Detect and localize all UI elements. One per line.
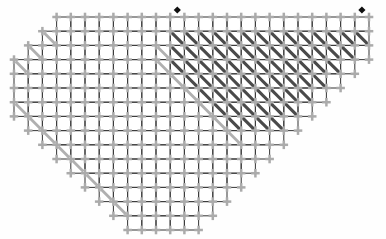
chart-cell: [227, 159, 241, 173]
chart-cell: [341, 60, 355, 74]
chart-cell: [184, 216, 198, 230]
chart-cell: [184, 202, 198, 216]
chart-cell: [85, 116, 99, 130]
chart-cell: [142, 88, 156, 102]
chart-cell: [99, 173, 113, 187]
chart-cell: [255, 145, 269, 159]
stitch-chart-svg: [0, 0, 386, 239]
chart-cell: [85, 45, 99, 59]
chart-cell: [213, 187, 227, 201]
chart-cell: [85, 88, 99, 102]
chart-cell: [184, 159, 198, 173]
chart-cell: [156, 74, 170, 88]
chart-cell: [270, 17, 284, 31]
chart-cell: [71, 31, 85, 45]
chart-cell: [326, 74, 340, 88]
chart-cell: [113, 116, 127, 130]
chart-cell: [113, 102, 127, 116]
chart-cell: [99, 17, 113, 31]
chart-cell: [156, 102, 170, 116]
chart-cell: [71, 131, 85, 145]
chart-cell: [85, 145, 99, 159]
chart-cell: [156, 88, 170, 102]
chart-cell: [142, 202, 156, 216]
chart-cell: [85, 102, 99, 116]
chart-cell: [241, 131, 255, 145]
chart-cell: [142, 159, 156, 173]
chart-cell: [156, 202, 170, 216]
chart-cell: [128, 173, 142, 187]
chart-cell: [14, 88, 28, 102]
chart-cell: [213, 159, 227, 173]
chart-cell: [184, 116, 198, 130]
chart-cell: [71, 102, 85, 116]
chart-cell: [85, 159, 99, 173]
chart-cell: [128, 131, 142, 145]
chart-cell: [142, 145, 156, 159]
chart-cell: [28, 102, 42, 116]
chart-cell: [184, 145, 198, 159]
chart-cell: [42, 45, 56, 59]
chart-cell: [355, 45, 369, 59]
chart-cell: [128, 17, 142, 31]
chart-cell: [113, 31, 127, 45]
chart-cell: [156, 131, 170, 145]
chart-cell: [128, 216, 142, 230]
chart-cell: [99, 116, 113, 130]
chart-cell: [170, 216, 184, 230]
chart-cell: [170, 202, 184, 216]
chart-cell: [71, 74, 85, 88]
chart-cell: [71, 116, 85, 130]
chart-cell: [71, 88, 85, 102]
chart-cell: [113, 88, 127, 102]
chart-cell: [42, 116, 56, 130]
chart-cell: [213, 17, 227, 31]
chart-cell: [85, 17, 99, 31]
chart-cell: [156, 17, 170, 31]
chart-cell: [156, 159, 170, 173]
chart-cell: [113, 173, 127, 187]
chart-cell: [142, 116, 156, 130]
chart-cell: [184, 173, 198, 187]
chart-cell: [142, 31, 156, 45]
chart-cell: [99, 45, 113, 59]
chart-cell: [113, 145, 127, 159]
chart-cell: [298, 17, 312, 31]
chart-cell: [113, 187, 127, 201]
chart-cell: [170, 88, 184, 102]
chart-cell: [142, 187, 156, 201]
chart-cell: [113, 60, 127, 74]
chart-cell: [241, 17, 255, 31]
chart-cell: [57, 45, 71, 59]
chart-cell: [184, 17, 198, 31]
chart-cell: [255, 131, 269, 145]
chart-cell: [227, 145, 241, 159]
chart-cell: [170, 116, 184, 130]
chart-cell: [28, 88, 42, 102]
chart-cell: [128, 159, 142, 173]
chart-cell: [113, 17, 127, 31]
chart-cell: [99, 102, 113, 116]
chart-cell: [284, 17, 298, 31]
chart-cell: [199, 159, 213, 173]
chart-cell: [355, 17, 369, 31]
chart-cell: [227, 173, 241, 187]
chart-cell: [312, 88, 326, 102]
chart-cell: [184, 187, 198, 201]
chart-cell: [199, 173, 213, 187]
chart-cell: [199, 187, 213, 201]
chart-cell: [42, 60, 56, 74]
chart-cell: [128, 102, 142, 116]
chart-cell: [241, 145, 255, 159]
chart-cell: [85, 60, 99, 74]
chart-cell: [14, 74, 28, 88]
chart-cell: [284, 116, 298, 130]
chart-cell: [170, 131, 184, 145]
chart-cell: [128, 45, 142, 59]
chart-cell: [213, 145, 227, 159]
chart-cell: [142, 60, 156, 74]
chart-cell: [57, 17, 71, 31]
chart-cell: [142, 102, 156, 116]
chart-cell: [142, 45, 156, 59]
chart-cell: [85, 131, 99, 145]
